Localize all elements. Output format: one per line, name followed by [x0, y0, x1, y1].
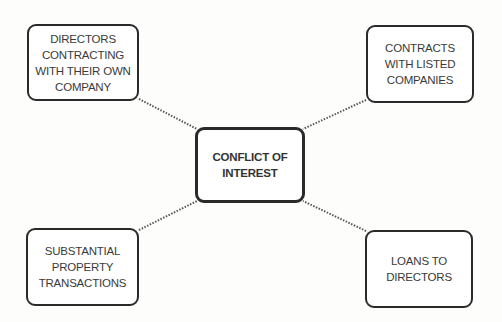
connector-br — [303, 201, 366, 231]
node-directors-contracting: DIRECTORS CONTRACTING WITH THEIR OWN COM… — [27, 24, 139, 101]
node-conflict-of-interest: CONFLICT OF INTEREST — [195, 127, 305, 203]
connector-tr — [303, 100, 366, 129]
node-contracts-listed-companies: CONTRACTS WITH LISTED COMPANIES — [366, 25, 474, 103]
node-substantial-property-transactions: SUBSTANTIAL PROPERTY TRANSACTIONS — [26, 228, 139, 306]
connector-bl — [139, 201, 197, 230]
node-loans-to-directors: LOANS TO DIRECTORS — [365, 230, 473, 308]
connector-tl — [139, 99, 197, 129]
